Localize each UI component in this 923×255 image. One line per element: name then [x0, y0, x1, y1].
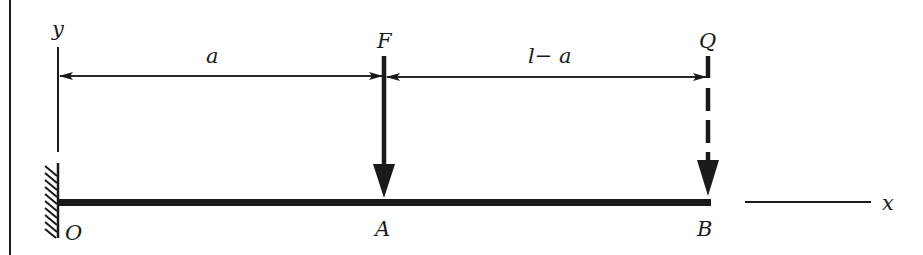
- force-f-arrow-icon: F: [373, 29, 395, 198]
- force-q-label: Q: [699, 29, 716, 53]
- dimension-a: a: [60, 44, 382, 76]
- cantilever-beam-diagram: y O a l− a F: [0, 0, 923, 255]
- dimension-l-minus-a-label: l− a: [528, 44, 572, 68]
- point-a-label: A: [373, 217, 390, 241]
- force-f-label: F: [376, 29, 393, 53]
- point-b-label: B: [696, 217, 712, 241]
- y-axis: y: [51, 17, 65, 152]
- x-axis-label: x: [882, 191, 894, 215]
- beam: [58, 199, 711, 206]
- origin-label: O: [65, 221, 82, 245]
- dimension-l-minus-a: l− a: [387, 44, 706, 77]
- fixed-support-icon: [45, 163, 58, 238]
- dimension-a-label: a: [206, 44, 219, 68]
- force-q-dashed-arrow-icon: Q: [697, 29, 719, 196]
- y-axis-label: y: [51, 17, 65, 41]
- x-axis: x: [745, 191, 894, 215]
